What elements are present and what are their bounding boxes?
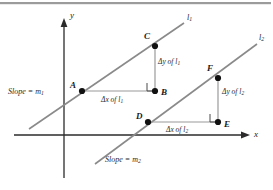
- dx-label-l1-sub: 1: [120, 98, 123, 104]
- dy-label-l2-sub: 2: [241, 90, 244, 96]
- point-d: [145, 119, 151, 125]
- y-axis-label: y: [70, 11, 74, 20]
- dy-label-l1-text: Δy of l: [158, 57, 177, 66]
- y-axis: [61, 18, 68, 178]
- point-e: [215, 119, 221, 125]
- dx-label-l2: Δx of l2: [166, 126, 188, 135]
- slope-label-m2-text: Slope = m: [105, 155, 138, 164]
- dx-label-l2-sub: 2: [185, 128, 188, 134]
- y-axis-arrowhead: [61, 18, 68, 27]
- point-label-d: D: [136, 112, 143, 121]
- dy-label-l2-text: Δy of l: [222, 87, 241, 96]
- dy-label-l1: Δy of l1: [158, 58, 180, 67]
- x-axis-arrowhead: [241, 132, 250, 139]
- rise-run-triangle-l2: [148, 78, 218, 122]
- dx-label-l2-text: Δx of l: [166, 125, 185, 134]
- slope-label-m1-text: Slope = m: [8, 87, 41, 96]
- point-label-e: E: [224, 120, 230, 129]
- slope-label-m2-sub: 2: [138, 158, 141, 164]
- point-f: [215, 75, 221, 81]
- point-label-f: F: [207, 64, 213, 73]
- line-label-l1-sub: 1: [189, 16, 192, 22]
- figure-canvas: y x l1 l2 A B C D E F Slope = m1 Slope =…: [0, 0, 273, 190]
- dx-label-l1: Δx of l1: [101, 96, 123, 105]
- slope-label-m1-sub: 1: [41, 90, 44, 96]
- point-a: [79, 88, 85, 94]
- dy-label-l2: Δy of l2: [222, 88, 244, 97]
- point-b: [152, 88, 158, 94]
- x-axis-label: x: [254, 130, 258, 139]
- point-label-c: C: [144, 32, 150, 41]
- slope-label-m1: Slope = m1: [8, 88, 44, 97]
- line-label-l2-sub: 2: [261, 36, 264, 42]
- point-label-b: B: [161, 88, 167, 97]
- dx-label-l1-text: Δx of l: [101, 95, 120, 104]
- top-divider-rule: [0, 2, 271, 4]
- point-label-a: A: [70, 81, 76, 90]
- slope-label-m2: Slope = m2: [105, 156, 141, 165]
- point-c: [152, 43, 158, 49]
- line-label-l1: l1: [187, 14, 192, 23]
- line-label-l2: l2: [259, 34, 264, 43]
- dy-label-l1-sub: 1: [177, 60, 180, 66]
- line-l1: [29, 23, 184, 129]
